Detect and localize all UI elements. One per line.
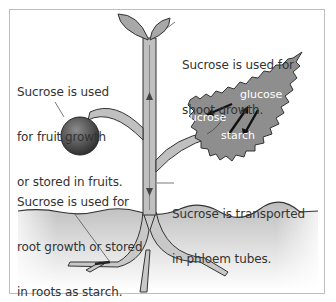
shoot-leaves <box>118 14 170 40</box>
glucose-label: glucose <box>240 88 282 101</box>
sucrose-label: sucrose <box>184 111 226 124</box>
starch-label: starch <box>221 129 255 142</box>
root-label: Sucrose is used for root growth or store… <box>17 165 142 302</box>
phloem-label: Sucrose is transported in phloem tubes. <box>172 177 305 282</box>
